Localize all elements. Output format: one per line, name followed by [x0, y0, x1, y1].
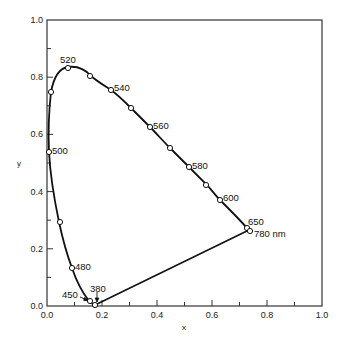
x-tick-label: 0.8: [261, 310, 274, 320]
x-axis-label: x: [182, 323, 186, 332]
marker-480: [69, 265, 74, 270]
marker-570: [167, 145, 172, 150]
label-780nm: 780 nm: [254, 228, 286, 239]
label-500: 500: [52, 145, 68, 156]
marker-450: [87, 298, 92, 303]
label-520: 520: [60, 54, 76, 65]
y-tick-label: 0.6: [30, 129, 43, 139]
x-tick-labels: 0.0 0.2 0.4 0.6 0.8 1.0: [41, 310, 329, 320]
label-650: 650: [248, 216, 264, 227]
x-tick-label: 0.4: [151, 310, 164, 320]
marker-600: [217, 197, 222, 202]
x-axis-ticks: [75, 300, 295, 306]
chromaticity-diagram: 0.0 0.2 0.4 0.6 0.8 1.0 0.0 0.2 0.4 0.6 …: [0, 0, 341, 342]
label-580: 580: [192, 160, 208, 171]
marker-550: [128, 105, 133, 110]
marker-580: [186, 164, 191, 169]
marker-590: [203, 182, 208, 187]
label-540: 540: [114, 82, 130, 93]
marker-780: [247, 228, 252, 233]
x-tick-label: 0.2: [96, 310, 109, 320]
y-axis-label: y: [17, 159, 21, 168]
x-tick-label: 0.0: [41, 310, 54, 320]
marker-490: [57, 219, 62, 224]
purple-line: [95, 230, 249, 305]
marker-380: [92, 302, 97, 307]
marker-540: [108, 87, 113, 92]
y-tick-label: 1.0: [30, 15, 43, 25]
x-tick-label: 0.6: [206, 310, 219, 320]
label-560: 560: [153, 120, 169, 131]
marker-560: [147, 124, 152, 129]
label-380: 380: [90, 283, 106, 294]
label-450: 450: [62, 289, 78, 300]
marker-530: [87, 73, 92, 78]
y-tick-label: 0.8: [30, 72, 43, 82]
y-tick-label: 0.4: [30, 187, 43, 197]
y-tick-label: 0.0: [30, 301, 43, 311]
x-tick-label: 1.0: [316, 310, 329, 320]
y-tick-label: 0.2: [30, 244, 43, 254]
marker-510: [48, 89, 53, 94]
marker-500: [46, 149, 51, 154]
y-tick-labels: 0.0 0.2 0.4 0.6 0.8 1.0: [30, 15, 43, 311]
label-600: 600: [223, 192, 239, 203]
wavelength-labels: 520 540 560 580 600 650 780 nm 500 480 4…: [52, 54, 286, 300]
marker-520: [65, 65, 70, 70]
label-480: 480: [75, 261, 91, 272]
